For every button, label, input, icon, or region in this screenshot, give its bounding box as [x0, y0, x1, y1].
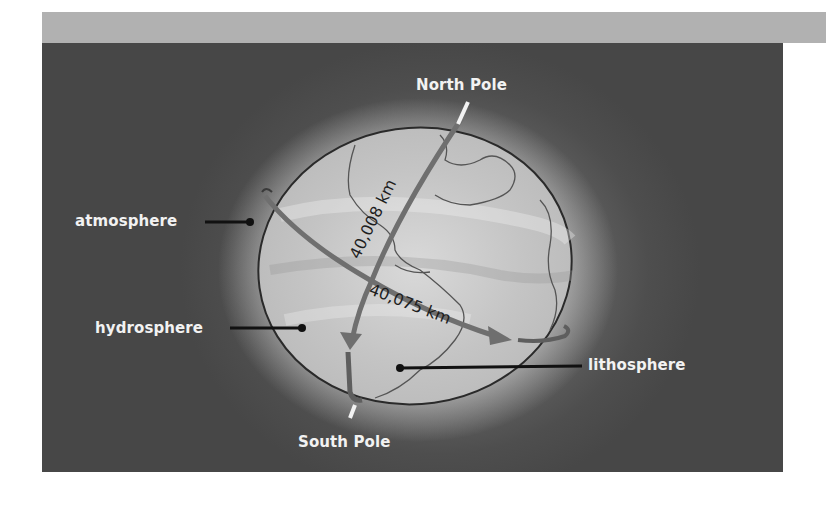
lithosphere-label: lithosphere: [588, 356, 686, 374]
top-band: [42, 12, 826, 43]
south-pole-label: South Pole: [298, 433, 390, 451]
lithosphere-leader-dot: [396, 364, 404, 372]
earth-diagram-panel: North Pole South Pole atmosphere hydrosp…: [42, 43, 783, 472]
lithosphere-leader-line: [400, 366, 582, 368]
atmosphere-leader-dot: [246, 218, 254, 226]
hydrosphere-leader-dot: [298, 324, 306, 332]
hydrosphere-label: hydrosphere: [95, 319, 203, 337]
atmosphere-label: atmosphere: [75, 212, 177, 230]
north-pole-label: North Pole: [416, 76, 507, 94]
earth-globe-illustration: [42, 43, 783, 472]
